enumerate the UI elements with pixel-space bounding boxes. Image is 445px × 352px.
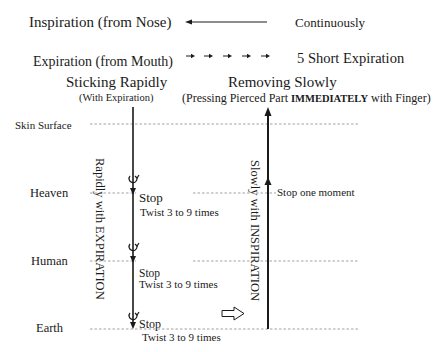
inspiration-arrow-icon (185, 20, 267, 25)
arrow-up-icon (265, 177, 272, 185)
arrow-down-icon (130, 256, 136, 263)
diagram-canvas (0, 0, 445, 352)
expiration-short-arrows-icon (186, 54, 270, 58)
level-lines (90, 124, 358, 329)
twist-icon (129, 175, 139, 183)
hollow-right-arrow-icon (222, 307, 244, 320)
arrow-down-icon (130, 188, 136, 195)
arrow-up-icon (265, 107, 272, 116)
right-needle (265, 107, 272, 329)
twist-icon (129, 312, 139, 320)
left-needle (129, 107, 139, 329)
arrow-down-icon (130, 322, 136, 329)
twist-icon (129, 243, 139, 251)
